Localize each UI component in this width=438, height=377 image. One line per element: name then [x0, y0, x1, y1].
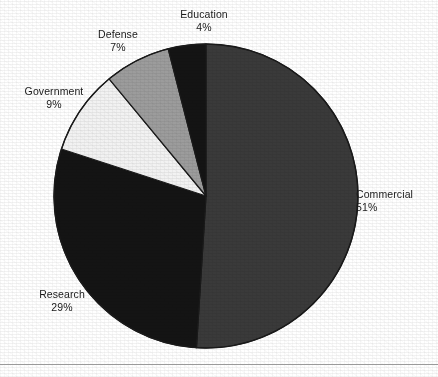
slice-label-research-name: Research [16, 288, 108, 301]
slice-label-research: Research 29% [16, 288, 108, 314]
pie-slice-commercial [196, 44, 358, 348]
slice-label-government-name: Government [2, 85, 106, 98]
slice-label-commercial-percent: 51% [356, 201, 438, 214]
pie-chart-figure: Education 4% Defense 7% Government 9% Re… [0, 0, 438, 377]
slice-label-commercial: Commercial 51% [356, 188, 438, 214]
slice-label-education-percent: 4% [152, 21, 256, 34]
footer-divider-rule [0, 364, 438, 365]
slice-label-defense: Defense 7% [72, 28, 164, 54]
slice-label-government-percent: 9% [2, 98, 106, 111]
slice-label-education: Education 4% [152, 8, 256, 34]
slice-label-defense-name: Defense [72, 28, 164, 41]
slice-label-commercial-name: Commercial [356, 188, 438, 201]
slice-label-research-percent: 29% [16, 301, 108, 314]
slice-label-education-name: Education [152, 8, 256, 21]
slice-label-defense-percent: 7% [72, 41, 164, 54]
slice-label-government: Government 9% [2, 85, 106, 111]
